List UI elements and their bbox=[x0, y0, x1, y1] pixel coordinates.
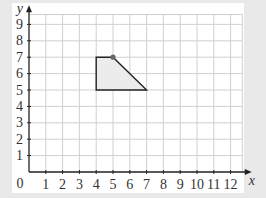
trapezium-shape bbox=[96, 55, 146, 90]
coordinate-grid-chart: 1234567891011121234567890xy bbox=[0, 0, 266, 198]
y-tick-label: 7 bbox=[16, 50, 23, 65]
x-tick-label: 10 bbox=[190, 177, 204, 192]
y-tick-label: 9 bbox=[16, 17, 23, 32]
axis-tick-labels: 1234567891011121234567890xy bbox=[15, 1, 256, 192]
x-tick-label: 6 bbox=[126, 177, 133, 192]
x-tick-label: 11 bbox=[207, 177, 220, 192]
y-tick-label: 6 bbox=[16, 66, 23, 81]
x-tick-label: 8 bbox=[160, 177, 167, 192]
y-tick-label: 5 bbox=[16, 83, 23, 98]
y-tick-label: 4 bbox=[16, 99, 23, 114]
y-tick-label: 2 bbox=[16, 132, 23, 147]
x-tick-label: 3 bbox=[76, 177, 83, 192]
marked-point bbox=[110, 55, 115, 60]
y-axis-arrow-icon bbox=[26, 5, 32, 12]
x-tick-label: 9 bbox=[177, 177, 184, 192]
x-tick-label: 4 bbox=[93, 177, 100, 192]
origin-label: 0 bbox=[17, 176, 24, 191]
x-tick-label: 12 bbox=[224, 177, 238, 192]
y-tick-label: 8 bbox=[16, 33, 23, 48]
grid-lines bbox=[29, 15, 242, 172]
y-tick-label: 1 bbox=[16, 148, 23, 163]
x-tick-label: 5 bbox=[110, 177, 117, 192]
x-tick-label: 7 bbox=[143, 177, 150, 192]
y-axis-label: y bbox=[15, 1, 24, 16]
x-axis-label: x bbox=[248, 173, 256, 188]
x-tick-label: 1 bbox=[42, 177, 49, 192]
x-tick-label: 2 bbox=[59, 177, 66, 192]
y-tick-label: 3 bbox=[16, 115, 23, 130]
